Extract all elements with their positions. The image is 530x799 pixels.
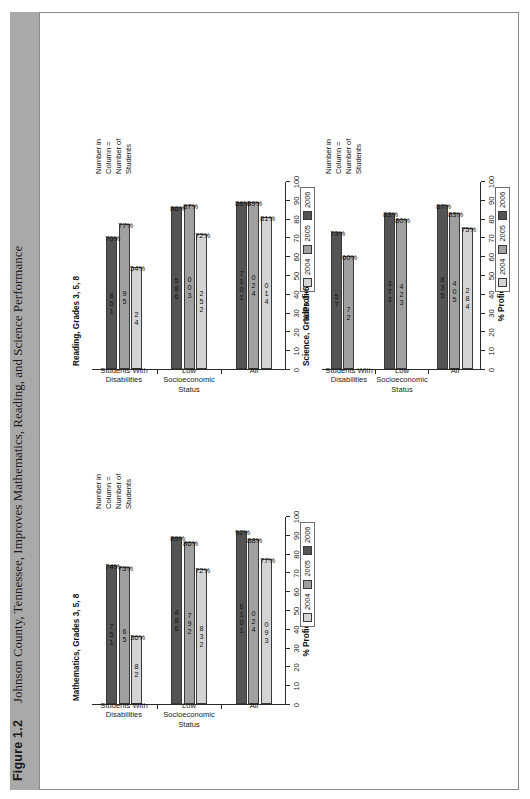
axis-tick xyxy=(481,331,485,332)
legend-item-2006[interactable]: 2006 xyxy=(498,192,507,220)
bar-2005-low-socioeconomic-status: 297 xyxy=(184,542,195,704)
count-digit: 4 xyxy=(465,302,469,311)
count-digit: 8 xyxy=(200,624,204,633)
legend-swatch-2004 xyxy=(303,613,312,622)
bar-count: 390 xyxy=(262,560,271,703)
bar-value-label: 54% xyxy=(130,264,145,275)
axis-tick-label: 30 xyxy=(487,303,496,325)
bar-2006-low-socioeconomic-status: 373 xyxy=(384,213,395,369)
chart-title: Mathematics, Grades 3, 5, 8 xyxy=(72,594,81,701)
chart-title: Reading, Grades 3, 5, 8 xyxy=(72,276,81,366)
x-axis xyxy=(285,182,286,370)
legend-label-2006: 2006 xyxy=(303,527,312,543)
bar-2006-all: 1017 xyxy=(236,202,247,369)
count-digit: 3 xyxy=(387,278,391,287)
bar-2004-students-with-disabilities: 42 xyxy=(131,267,142,369)
count-digit: 3 xyxy=(387,294,391,303)
axis-tick xyxy=(286,369,290,370)
count-digit: 7 xyxy=(239,269,243,278)
count-digit: 5 xyxy=(200,297,204,306)
group-label: Low Socioeconomic Status xyxy=(157,701,221,729)
count-digit: 5 xyxy=(122,635,126,644)
count-digit: 1 xyxy=(110,638,114,647)
group-label: Students With Disabilities xyxy=(92,366,156,385)
count-digit: 1 xyxy=(239,277,243,286)
bar-count: 410 xyxy=(262,218,271,368)
count-digit: 4 xyxy=(135,318,139,327)
count-digit: 3 xyxy=(400,297,404,306)
bar-value-label: 72% xyxy=(195,231,210,242)
count-digit: 5 xyxy=(110,630,114,639)
axis-tick xyxy=(286,219,290,220)
bar-count: 28 xyxy=(132,637,141,703)
count-digit: 2 xyxy=(135,670,139,679)
bar-2005-low-socioeconomic-status: 324 xyxy=(396,219,407,369)
chart-title: Science, Grades 3–6 xyxy=(302,286,311,366)
bar-count: 56 xyxy=(120,568,129,703)
bar-value-label: 77% xyxy=(260,556,275,567)
count-digit: 2 xyxy=(200,305,204,314)
bar-2006-low-socioeconomic-status: 684 xyxy=(171,537,182,704)
count-digit: 0 xyxy=(239,285,243,294)
plot-area: 010203040506070809010041081%42089%101789… xyxy=(92,182,286,370)
bar-2005-low-socioeconomic-status: 300 xyxy=(184,205,195,369)
group-separator-tick xyxy=(221,370,222,374)
legend-item-2005[interactable]: 2005 xyxy=(498,225,507,253)
bar-count: 297 xyxy=(185,543,194,703)
count-digit: 2 xyxy=(200,289,204,298)
count-digit: 9 xyxy=(187,619,191,628)
axis-tick xyxy=(286,256,290,257)
figure-caption: Figure 1.2 Johnson County, Tennessee, Im… xyxy=(10,21,26,781)
count-digit: 0 xyxy=(453,286,457,295)
count-digit: 2 xyxy=(252,617,256,626)
count-digit: 4 xyxy=(175,608,179,617)
legend-item-2006[interactable]: 2006 xyxy=(303,527,312,555)
count-digit: 6 xyxy=(175,624,179,633)
count-digit: 7 xyxy=(347,304,351,313)
legend-item-2005[interactable]: 2005 xyxy=(303,560,312,588)
count-digit: 0 xyxy=(264,280,268,289)
bar-value-label: 73% xyxy=(330,229,345,240)
legend-item-2004[interactable]: 2004 xyxy=(498,259,507,287)
count-digit: 5 xyxy=(175,276,179,285)
axis-tick xyxy=(286,572,290,573)
bar-2006-all: 538 xyxy=(437,205,448,369)
axis-tick xyxy=(286,294,290,295)
legend-item-2004[interactable]: 2004 xyxy=(303,594,312,622)
bar-count: 538 xyxy=(438,206,447,368)
bar-count: 27 xyxy=(344,257,353,368)
count-digit: 0 xyxy=(264,619,268,628)
bar-2004-low-socioeconomic-status: 238 xyxy=(196,569,207,704)
bar-2004-all: 410 xyxy=(261,217,272,369)
bar-2005-all: 420 xyxy=(248,202,259,369)
legend-label-2005: 2005 xyxy=(498,225,507,241)
bar-2005-students-with-disabilities: 56 xyxy=(119,567,130,704)
count-digit: 4 xyxy=(453,278,457,287)
count-digit: 2 xyxy=(400,289,404,298)
legend-label-2004: 2004 xyxy=(498,259,507,275)
group-label: Low Socioeconomic Status xyxy=(157,366,221,394)
bar-count: 420 xyxy=(249,203,258,368)
count-digit: 1 xyxy=(264,288,268,297)
bar-2004-all: 482 xyxy=(462,228,473,369)
group-label: All xyxy=(222,366,286,375)
bar-2006-all: 1016 xyxy=(236,531,247,704)
bar-value-label: 86% xyxy=(170,204,185,215)
bar-2005-all: 420 xyxy=(248,539,259,704)
count-digit: 4 xyxy=(252,625,256,634)
bar-value-label: 60% xyxy=(342,253,357,264)
count-digit: 8 xyxy=(110,291,114,300)
bar-value-label: 87% xyxy=(436,202,451,213)
axis-tick xyxy=(286,313,290,314)
bar-value-label: 36% xyxy=(130,633,145,644)
count-digit: 0 xyxy=(187,275,191,284)
axis-tick xyxy=(481,294,485,295)
x-axis xyxy=(480,182,481,370)
legend-swatch-2005 xyxy=(303,580,312,589)
bar-value-label: 89% xyxy=(235,199,250,210)
count-digit: 0 xyxy=(252,609,256,618)
axis-tick xyxy=(286,648,290,649)
axis-tick xyxy=(286,629,290,630)
legend-swatch-2004 xyxy=(498,278,507,287)
legend-swatch-2006 xyxy=(498,211,507,220)
